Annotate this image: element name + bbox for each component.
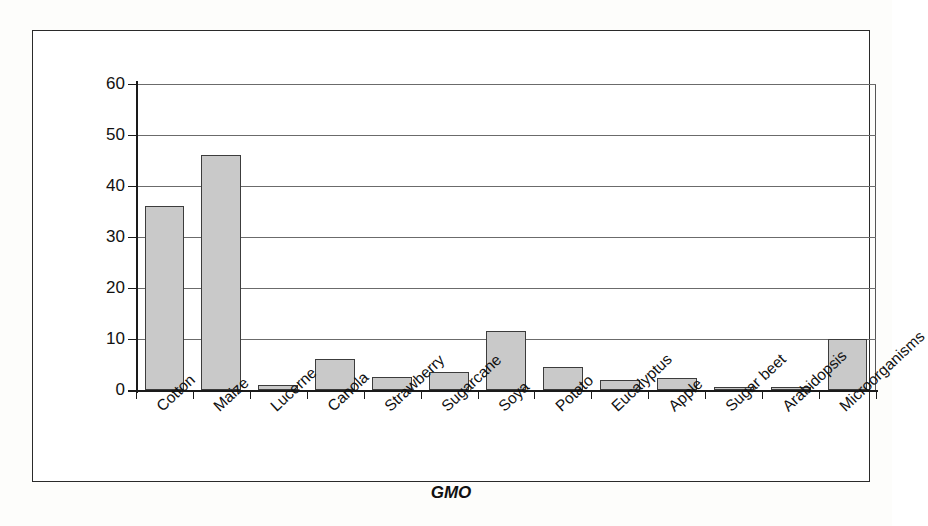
y-tick-40 — [128, 186, 136, 187]
x-tick-7 — [534, 390, 535, 399]
y-tick-label-30: 30 — [106, 227, 125, 247]
y-tick-label-10: 10 — [106, 329, 125, 349]
x-tick-1 — [193, 390, 194, 399]
y-tick-60 — [128, 84, 136, 85]
y-tick-label-20: 20 — [106, 278, 125, 298]
x-tick-11 — [762, 390, 763, 399]
y-tick-50 — [128, 135, 136, 136]
x-tick-9 — [648, 390, 649, 399]
x-tick-end — [876, 390, 877, 399]
x-tick-4 — [364, 390, 365, 399]
x-tick-12 — [819, 390, 820, 399]
x-tick-6 — [478, 390, 479, 399]
x-tick-2 — [250, 390, 251, 399]
x-tick-0 — [136, 390, 137, 399]
gridline-30 — [136, 237, 876, 238]
y-tick-20 — [128, 288, 136, 289]
x-tick-10 — [705, 390, 706, 399]
x-tick-8 — [591, 390, 592, 399]
y-tick-30 — [128, 237, 136, 238]
gridline-20 — [136, 288, 876, 289]
gridline-50 — [136, 135, 876, 136]
bar-maize — [201, 155, 241, 390]
x-tick-3 — [307, 390, 308, 399]
y-axis-line — [136, 81, 138, 393]
y-tick-label-50: 50 — [106, 125, 125, 145]
y-tick-label-40: 40 — [106, 176, 125, 196]
figure-frame: 0102030405060 Number of applications Cot… — [32, 30, 870, 482]
plot-area — [136, 84, 876, 390]
x-axis-title: GMO — [33, 483, 869, 503]
bar-cotton — [145, 206, 185, 390]
y-tick-label-60: 60 — [106, 74, 125, 94]
gridline-60 — [136, 84, 876, 85]
x-tick-5 — [421, 390, 422, 399]
y-tick-10 — [128, 339, 136, 340]
y-axis-tick-labels: 0102030405060 — [85, 31, 125, 526]
gridline-40 — [136, 186, 876, 187]
y-tick-label-0: 0 — [116, 380, 125, 400]
